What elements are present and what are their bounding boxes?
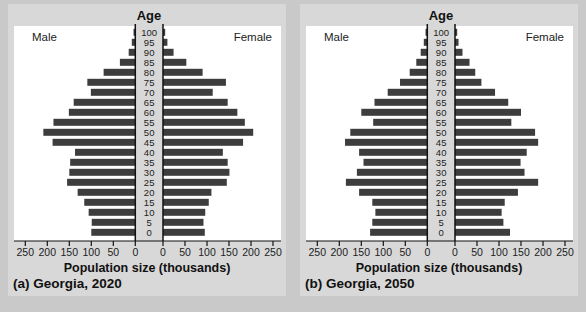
bar-female-age-75 [163,79,226,86]
age-label-80: 80 [144,67,155,78]
bar-female-age-45 [455,139,538,146]
x-tick-label-right-150: 150 [512,246,530,258]
bar-male-age-55 [53,119,135,126]
age-label-75: 75 [144,77,155,88]
age-label-20: 20 [144,187,155,198]
bar-female-age-15 [163,199,209,206]
female-side-label: Female [234,31,272,43]
age-label-50: 50 [144,127,155,138]
bar-male-age-5 [92,219,136,226]
bar-male-age-85 [120,59,135,66]
age-label-40: 40 [144,147,155,158]
x-tick-label-left-150: 150 [353,246,371,258]
bar-female-age-80 [163,69,203,76]
x-tick-label-left-0: 0 [132,246,138,258]
bar-male-age-35 [364,159,428,166]
age-label-65: 65 [144,97,155,108]
bar-male-age-75 [87,79,135,86]
bar-female-age-20 [163,189,211,196]
age-label-40: 40 [436,147,447,158]
bar-female-age-35 [163,159,228,166]
bar-male-age-30 [357,169,427,176]
bar-male-age-45 [345,139,427,146]
bar-male-age-50 [43,129,135,136]
age-label-55: 55 [436,117,447,128]
x-tick-label-left-250: 250 [17,246,35,258]
bar-female-age-70 [455,89,495,96]
age-label-35: 35 [436,157,447,168]
age-label-95: 95 [144,37,155,48]
x-tick-label-left-0: 0 [424,246,430,258]
bar-male-age-45 [53,139,136,146]
bar-male-age-20 [78,189,136,196]
bar-male-age-0 [370,229,427,236]
bar-male-age-70 [91,89,135,96]
bar-female-age-30 [455,169,525,176]
bar-female-age-15 [455,199,505,206]
bar-female-age-10 [163,209,205,216]
bar-female-age-45 [163,139,243,146]
bar-male-age-90 [421,49,428,56]
bar-female-age-0 [455,229,510,236]
bar-male-age-60 [69,109,135,116]
age-label-10: 10 [436,207,447,218]
age-label-60: 60 [144,107,155,118]
bar-female-age-70 [163,89,213,96]
bar-male-age-35 [70,159,135,166]
bar-male-age-25 [67,179,135,186]
bar-female-age-25 [455,179,538,186]
bar-male-age-80 [410,69,428,76]
bar-female-age-25 [163,179,227,186]
bar-female-age-90 [163,49,174,56]
x-axis-label: Population size (thousands) [64,261,231,275]
x-tick-label-right-100: 100 [490,246,508,258]
age-label-100: 100 [433,27,449,38]
bar-female-age-55 [455,119,511,126]
pyramid-chart-2050: 0510152025303540455055606570758085909510… [300,4,578,296]
bar-male-age-85 [416,59,427,66]
age-label-90: 90 [144,47,155,58]
age-label-70: 70 [144,87,155,98]
age-label-5: 5 [439,217,444,228]
bar-male-age-5 [372,219,427,226]
x-tick-label-left-200: 200 [39,246,57,258]
age-label-95: 95 [436,37,447,48]
age-label-50: 50 [436,127,447,138]
female-side-label: Female [526,31,564,43]
x-tick-label-left-150: 150 [61,246,79,258]
age-label-25: 25 [436,177,447,188]
bar-female-age-20 [455,189,518,196]
age-label-10: 10 [144,207,155,218]
bar-female-age-60 [455,109,521,116]
age-label-65: 65 [436,97,447,108]
bar-female-age-0 [163,229,205,236]
bar-male-age-75 [400,79,427,86]
age-axis-title: Age [137,8,162,23]
age-label-30: 30 [436,167,447,178]
age-label-0: 0 [439,227,444,238]
x-axis-label: Population size (thousands) [356,261,523,275]
x-tick-label-right-50: 50 [471,246,483,258]
x-tick-label-left-50: 50 [107,246,119,258]
bar-female-age-10 [455,209,502,216]
x-tick-label-right-200: 200 [534,246,552,258]
x-tick-label-left-100: 100 [375,246,393,258]
bar-female-age-5 [163,219,203,226]
age-label-5: 5 [147,217,152,228]
age-label-30: 30 [144,167,155,178]
x-tick-label-right-250: 250 [556,246,574,258]
x-tick-label-left-250: 250 [309,246,327,258]
bar-female-age-85 [455,59,470,66]
age-label-35: 35 [144,157,155,168]
caption-georgia-2050: (b) Georgia, 2050 [305,276,415,291]
bar-male-age-30 [69,169,135,176]
bar-male-age-10 [375,209,427,216]
age-label-80: 80 [436,67,447,78]
bar-female-age-90 [455,49,462,56]
x-tick-label-right-200: 200 [242,246,260,258]
figure-population-pyramids: 0510152025303540455055606570758085909510… [0,0,586,312]
age-label-25: 25 [144,177,155,188]
age-label-100: 100 [141,27,157,38]
x-tick-label-right-0: 0 [160,246,166,258]
bar-female-age-55 [163,119,245,126]
